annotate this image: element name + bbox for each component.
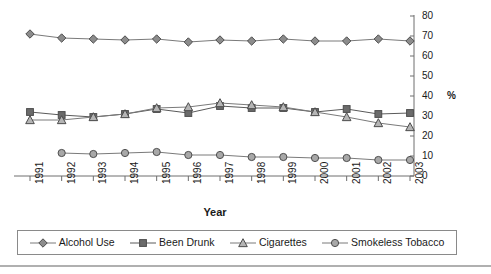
data-point [342, 37, 350, 45]
data-point [152, 35, 160, 43]
legend-label: Been Drunk [159, 237, 214, 248]
x-axis-tick-label: 1993 [98, 162, 108, 184]
chart-figure: 01020304050607080% 199119921993199419951… [0, 0, 491, 274]
y-axis-tick-label: 80 [422, 11, 433, 21]
triangle-marker-icon [230, 237, 256, 249]
data-point [407, 110, 414, 117]
x-axis-tick-label: 1991 [35, 162, 45, 184]
legend-label: Smokeless Tobacco [351, 237, 444, 248]
x-axis-tick-label: 2001 [352, 162, 362, 184]
data-point [57, 34, 65, 42]
x-axis-tick-label: 1997 [225, 162, 235, 184]
y-axis-tick-label: 60 [422, 51, 433, 61]
data-point [406, 37, 414, 45]
legend-item-alcohol-use[interactable]: Alcohol Use [30, 237, 115, 249]
data-point [343, 154, 350, 161]
data-point [121, 36, 129, 44]
y-axis-tick-label: 50 [422, 71, 433, 81]
data-point [280, 153, 287, 160]
data-point [90, 150, 97, 157]
y-axis-tick-label: 20 [422, 131, 433, 141]
data-point [247, 37, 255, 45]
data-point [121, 149, 128, 156]
data-point [311, 37, 319, 45]
data-point [279, 35, 287, 43]
data-point [216, 36, 224, 44]
y-axis-tick-label: 30 [422, 111, 433, 121]
x-axis-tick-label: 2002 [383, 162, 393, 184]
legend-item-smokeless-tobacco[interactable]: Smokeless Tobacco [322, 237, 444, 249]
y-axis-tick-label: 70 [422, 31, 433, 41]
data-point [311, 154, 318, 161]
bottom-divider [0, 265, 491, 267]
legend-item-been-drunk[interactable]: Been Drunk [130, 237, 214, 249]
data-point [216, 151, 223, 158]
diamond-marker-icon [30, 237, 56, 249]
y-axis-unit-label: % [447, 91, 456, 101]
x-axis-title: Year [0, 206, 430, 218]
data-point [184, 38, 192, 46]
data-point [374, 35, 382, 43]
y-axis-tick-label: 40 [422, 91, 433, 101]
x-axis-tick-label: 1998 [257, 162, 267, 184]
data-point [248, 153, 255, 160]
x-axis-tick-label: 2000 [320, 162, 330, 184]
legend-label: Alcohol Use [59, 237, 115, 248]
x-axis-tick-label: 1995 [162, 162, 172, 184]
data-point [185, 151, 192, 158]
line-chart-canvas [0, 0, 491, 225]
x-axis-tick-label: 1999 [288, 162, 298, 184]
series-line [62, 152, 410, 160]
circle-marker-icon [322, 237, 348, 249]
x-axis-tick-label: 1996 [193, 162, 203, 184]
series-alcohol-use [26, 30, 414, 46]
chart-legend: Alcohol UseBeen DrunkCigarettesSmokeless… [17, 230, 457, 255]
legend-item-cigarettes[interactable]: Cigarettes [230, 237, 307, 249]
x-axis-tick-label: 1992 [67, 162, 77, 184]
data-point [375, 156, 382, 163]
data-point [375, 111, 382, 118]
data-point [153, 148, 160, 155]
data-point [406, 156, 413, 163]
data-point [58, 149, 65, 156]
data-point [27, 109, 34, 116]
square-marker-icon [130, 237, 156, 249]
plot-area: 01020304050607080% 199119921993199419951… [0, 0, 491, 225]
data-point [343, 106, 350, 113]
series-cigarettes [26, 99, 415, 131]
x-axis-tick-label: 1994 [130, 162, 140, 184]
y-axis-tick-label: 10 [422, 151, 433, 161]
data-point [26, 30, 34, 38]
data-point [89, 35, 97, 43]
x-axis-tick-label: 2003 [415, 162, 425, 184]
legend-label: Cigarettes [259, 237, 307, 248]
